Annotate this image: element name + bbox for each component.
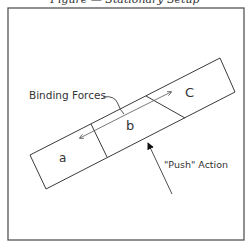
segment-a-label: a: [59, 151, 66, 165]
binding-leader-line: [103, 97, 124, 114]
diagram-canvas: Binding Forces "Push" Action a b C: [0, 0, 250, 242]
divider-a-b: [91, 124, 107, 157]
divider-b-c: [146, 96, 185, 118]
segment-b-label: b: [126, 118, 134, 133]
segment-c-label: C: [185, 85, 194, 100]
push-action-label: "Push" Action: [164, 159, 228, 170]
binding-forces-label: Binding Forces: [29, 89, 106, 101]
